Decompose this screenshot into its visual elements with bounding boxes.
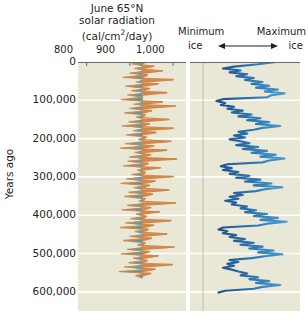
solar-units-prefix: (cal/cm — [82, 29, 121, 41]
y-axis-tick-labels: 0100,000200,000300,000400,000500,000600,… — [2, 0, 76, 321]
x-tick-1000: 1,000 — [136, 44, 165, 55]
solar-units-suffix: /day) — [125, 29, 152, 41]
maximum-ice-label-line1: Maximum — [257, 26, 306, 37]
plot-area — [78, 62, 300, 311]
y-tick-label: 200,000 — [4, 132, 76, 144]
minimum-ice-label-line2: ice — [188, 40, 202, 51]
y-tick-label: 100,000 — [4, 93, 76, 105]
y-tick-label: 600,000 — [4, 285, 76, 297]
y-tick-label: 0 — [4, 55, 76, 67]
minimum-ice-label-line1: Minimum — [178, 26, 224, 37]
y-tick-label: 500,000 — [4, 247, 76, 259]
y-tick-label: 300,000 — [4, 170, 76, 182]
figure-root: June 65°N solar radiation (cal/cm2/day) … — [0, 0, 308, 321]
maximum-ice-label-line2: ice — [289, 40, 303, 51]
ice-axis-header: Minimum Maximum ice ice — [178, 26, 306, 58]
solar-radiation-svg — [78, 62, 186, 311]
double-arrow-icon — [218, 40, 278, 52]
ice-volume-panel — [190, 62, 300, 311]
y-tick-label: 400,000 — [4, 208, 76, 220]
x-tick-900: 900 — [96, 44, 115, 55]
solar-radiation-panel — [78, 62, 186, 311]
ice-volume-svg — [190, 62, 300, 311]
